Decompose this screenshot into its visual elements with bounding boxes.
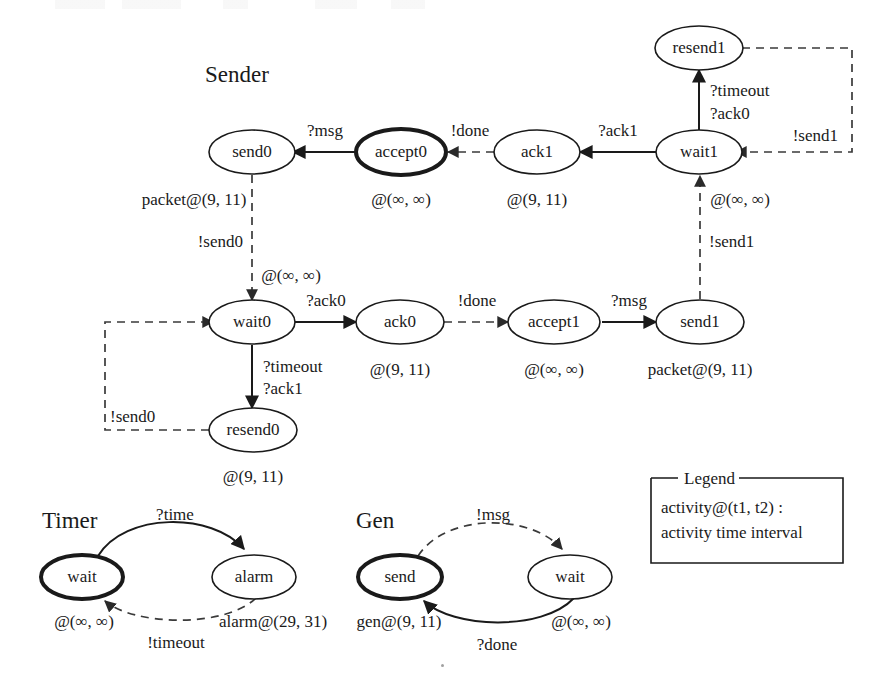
edge-label-timer-wait-alarm: ?time <box>156 505 194 524</box>
edge-label-ack0-accept1: !done <box>458 291 497 310</box>
timing-wait1: @(∞, ∞) <box>710 190 770 209</box>
node-timer-wait-label: wait <box>67 567 97 586</box>
node-ack0[interactable]: ack0 <box>356 300 444 344</box>
node-gen-wait[interactable]: wait <box>528 555 612 599</box>
node-gen-wait-label: wait <box>555 567 585 586</box>
edge-label-send1-wait1: !send1 <box>709 232 754 251</box>
sender-group-title: Sender <box>205 62 269 87</box>
node-accept1[interactable]: accept1 <box>508 300 600 344</box>
timing-send0: packet@(9, 11) <box>142 190 247 209</box>
node-send0-label: send0 <box>232 142 272 161</box>
timing-resend0: @(9, 11) <box>223 467 283 486</box>
node-timer-alarm-label: alarm <box>235 567 274 586</box>
timing-timer-alarm: alarm@(29, 31) <box>219 612 327 631</box>
node-resend1-label: resend1 <box>673 38 726 57</box>
edge-label-accept0-send0: ?msg <box>307 121 343 140</box>
legend-border <box>651 478 843 563</box>
node-wait1-label: wait1 <box>680 142 718 161</box>
edge-label-gen-wait-send: ?done <box>477 635 518 654</box>
node-gen-send-label: send <box>384 567 416 586</box>
node-wait0[interactable]: wait0 <box>209 300 295 344</box>
timing-gen-wait: @(∞, ∞) <box>551 612 611 631</box>
node-send1-label: send1 <box>680 312 720 331</box>
node-timer-wait[interactable]: wait <box>41 555 123 599</box>
edge-label-resend0-wait0: !send0 <box>110 407 155 426</box>
timing-ack0: @(9, 11) <box>370 360 430 379</box>
edge-label-gen-send-wait: !msg <box>476 505 511 524</box>
timing-wait0: @(∞, ∞) <box>261 266 321 285</box>
edge-label-wait1-resend1-line2: ?ack0 <box>710 104 750 123</box>
node-gen-send[interactable]: send <box>358 555 442 599</box>
node-wait0-label: wait0 <box>233 312 271 331</box>
node-send0[interactable]: send0 <box>209 130 295 174</box>
edge-label-timer-alarm-wait: !timeout <box>147 633 205 652</box>
legend: Legend activity@(t1, t2) : activity time… <box>651 469 843 563</box>
edge-label-wait0-ack0: ?ack0 <box>306 291 346 310</box>
edge-label-wait0-resend0-line2: ?ack1 <box>263 379 303 398</box>
node-resend0-label: resend0 <box>227 420 280 439</box>
edge-timer-wait-alarm <box>98 522 244 556</box>
timing-timer-wait: @(∞, ∞) <box>54 612 114 631</box>
edge-gen-send-wait <box>418 523 562 556</box>
node-resend0[interactable]: resend0 <box>209 408 297 452</box>
timer-group-title: Timer <box>42 508 98 533</box>
timing-ack1: @(9, 11) <box>507 190 567 209</box>
legend-line-2: activity time interval <box>661 523 803 542</box>
edge-label-accept1-send1: ?msg <box>611 291 647 310</box>
node-ack0-label: ack0 <box>384 312 416 331</box>
edge-label-ack1-accept0: !done <box>451 121 490 140</box>
edge-label-wait0-resend0-line1: ?timeout <box>263 357 323 376</box>
node-ack1-label: ack1 <box>521 142 553 161</box>
node-wait1[interactable]: wait1 <box>656 130 742 174</box>
node-ack1[interactable]: ack1 <box>494 130 580 174</box>
state-diagram: Sender ?msg !done ?ack1 ?timeout ?ack0 !… <box>0 0 886 683</box>
node-resend1[interactable]: resend1 <box>655 26 743 70</box>
edge-label-wait1-resend1-line1: ?timeout <box>710 81 770 100</box>
edge-label-send0-wait0: !send0 <box>198 232 243 251</box>
node-accept0-label: accept0 <box>375 142 427 161</box>
timing-gen-send: gen@(9, 11) <box>357 612 442 631</box>
timing-accept0: @(∞, ∞) <box>371 190 431 209</box>
edge-label-wait1-ack1: ?ack1 <box>598 121 638 140</box>
node-accept0[interactable]: accept0 <box>356 129 446 175</box>
node-timer-alarm[interactable]: alarm <box>212 555 296 599</box>
timing-accept1: @(∞, ∞) <box>524 360 584 379</box>
timing-send1: packet@(9, 11) <box>648 360 753 379</box>
gen-group-title: Gen <box>356 508 395 533</box>
edge-label-resend1-wait1: !send1 <box>793 126 838 145</box>
legend-line-1: activity@(t1, t2) : <box>661 498 783 517</box>
node-accept1-label: accept1 <box>528 312 580 331</box>
node-send1[interactable]: send1 <box>656 300 744 344</box>
legend-title: Legend <box>684 469 735 488</box>
figure-canvas: Sender ?msg !done ?ack1 ?timeout ?ack0 !… <box>0 0 886 683</box>
